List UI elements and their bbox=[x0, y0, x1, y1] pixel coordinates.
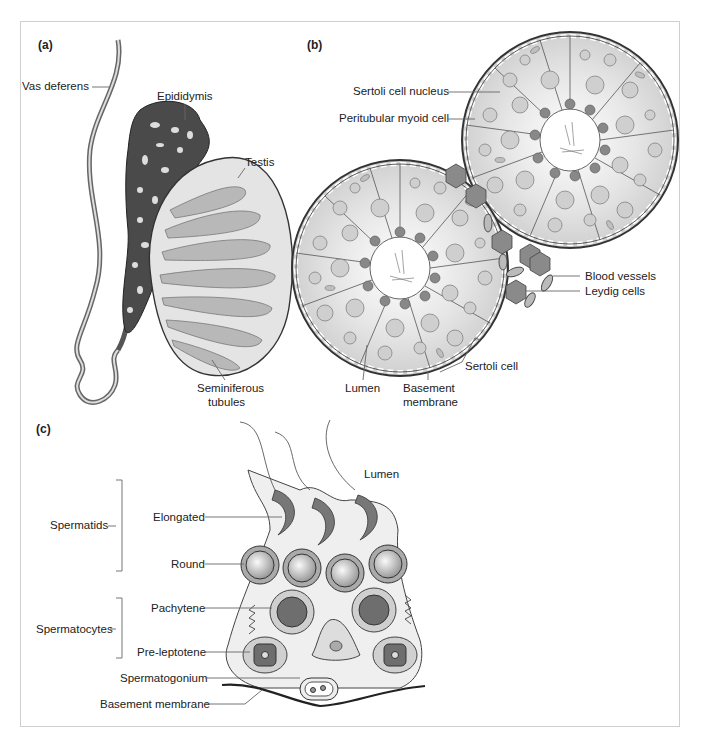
biology-figure: (a) Vas deferens Epididymis Testis Semin… bbox=[0, 0, 701, 742]
panel-a-label: (a) bbox=[38, 38, 53, 52]
label-basement-1: Basement bbox=[403, 382, 456, 394]
label-testis: Testis bbox=[245, 156, 275, 168]
label-lumen-c: Lumen bbox=[364, 468, 399, 480]
label-peritubular: Peritubular myoid cell bbox=[339, 112, 449, 124]
label-pachytene: Pachytene bbox=[151, 602, 205, 614]
label-spermatids: Spermatids bbox=[50, 519, 108, 531]
panel-c-label: (c) bbox=[36, 422, 51, 436]
label-seminiferous-1: Seminiferous bbox=[197, 382, 264, 394]
label-sertoli-cell: Sertoli cell bbox=[465, 360, 518, 372]
label-basement-2: membrane bbox=[403, 396, 458, 408]
label-blood-vessels: Blood vessels bbox=[585, 270, 656, 282]
label-elongated: Elongated bbox=[153, 511, 205, 523]
label-spermatogonium: Spermatogonium bbox=[120, 672, 208, 684]
label-sertoli-nucleus: Sertoli cell nucleus bbox=[353, 85, 449, 97]
label-vas-deferens: Vas deferens bbox=[22, 80, 89, 92]
label-spermatocytes: Spermatocytes bbox=[36, 623, 113, 635]
label-lumen-b: Lumen bbox=[345, 382, 380, 394]
spermatogonium bbox=[300, 678, 338, 700]
panel-b-label: (b) bbox=[307, 38, 322, 52]
label-round: Round bbox=[171, 558, 205, 570]
label-basement-membrane: Basement membrane bbox=[100, 698, 210, 710]
label-pre-leptotene: Pre-leptotene bbox=[137, 646, 206, 658]
label-seminiferous-2: tubules bbox=[208, 396, 245, 408]
label-leydig: Leydig cells bbox=[585, 285, 645, 297]
vas-deferens-tube bbox=[77, 40, 119, 402]
label-epididymis: Epididymis bbox=[157, 90, 213, 102]
